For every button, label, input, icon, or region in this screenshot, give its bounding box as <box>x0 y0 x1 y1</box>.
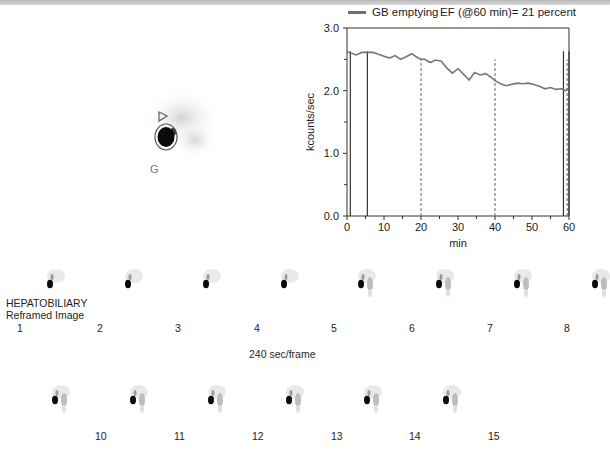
gb-emptying-series-line <box>347 52 569 91</box>
frame-thumbnail <box>421 262 461 302</box>
x-tick-label: 30 <box>452 221 464 233</box>
frame-thumbnail <box>349 378 389 418</box>
frame-number-label: 13 <box>331 430 343 442</box>
frame-thumbnail <box>110 262 150 302</box>
frame-thumbnail <box>343 262 383 302</box>
frame-thumbnail <box>115 378 155 418</box>
frame-thumbnail <box>266 262 306 302</box>
frame-timing: 240 sec/frame <box>249 348 316 360</box>
frame-thumbnail <box>577 262 610 302</box>
x-tick-label: 20 <box>415 221 427 233</box>
frame-thumbnail <box>193 378 233 418</box>
x-axis-label: min <box>449 237 467 249</box>
frame-number-label: 5 <box>331 322 337 334</box>
frame-number-label: 8 <box>564 322 570 334</box>
frame-thumbnail <box>37 378 77 418</box>
x-tick-label: 60 <box>563 221 575 233</box>
frame-thumbnail <box>188 262 228 302</box>
frame-number-label: 11 <box>174 430 185 442</box>
frame-thumbnail <box>271 378 311 418</box>
x-tick-label: 0 <box>344 221 350 233</box>
frame-number-label: 1 <box>17 322 23 334</box>
x-tick-label: 10 <box>378 221 390 233</box>
frame-thumbnail <box>499 262 539 302</box>
frame-number-label: 7 <box>487 322 493 334</box>
frame-number-label: 6 <box>409 322 415 334</box>
frame-number-label: 4 <box>254 322 260 334</box>
y-tick-label: 0.0 <box>324 210 339 222</box>
frame-number-label: 10 <box>95 430 107 442</box>
frame-number-label: 14 <box>409 430 421 442</box>
frame-number-label: 12 <box>252 430 264 442</box>
frame-number-label: 2 <box>97 322 103 334</box>
frame-thumbnail <box>32 262 72 302</box>
frames-subtitle: Reframed Image <box>6 309 84 321</box>
x-tick-label: 40 <box>489 221 501 233</box>
y-tick-label: 1.0 <box>324 147 339 159</box>
y-tick-label: 2.0 <box>324 85 339 97</box>
y-tick-label: 3.0 <box>324 22 339 34</box>
frame-number-label: 15 <box>488 430 500 442</box>
y-axis-label: kcounts/sec <box>304 92 316 151</box>
gb-emptying-chart: 01020304050600.01.02.03.0 min kcounts/se… <box>0 0 610 300</box>
frame-thumbnail <box>428 378 468 418</box>
x-tick-label: 50 <box>526 221 538 233</box>
frame-number-label: 3 <box>175 322 181 334</box>
